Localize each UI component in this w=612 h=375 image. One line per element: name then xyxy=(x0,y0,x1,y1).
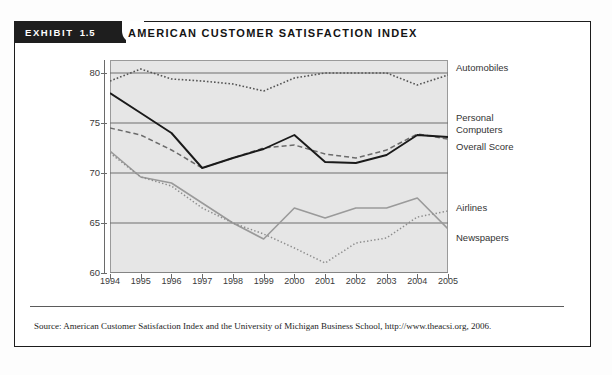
series-line-automobiles xyxy=(110,69,448,91)
y-tick-65: 65 xyxy=(74,217,100,228)
chart-svg xyxy=(110,60,448,273)
y-axis-line xyxy=(104,60,105,274)
series-line-overall-score xyxy=(110,93,448,168)
x-tick-mark-2002 xyxy=(356,274,357,279)
legend-newspapers: Newspapers xyxy=(456,232,509,244)
x-tick-mark-2001 xyxy=(325,274,326,279)
x-tick-mark-1995 xyxy=(141,274,142,279)
series-line-newspapers xyxy=(110,153,448,263)
exhibit-label: EXHIBIT xyxy=(25,27,74,38)
x-tick-mark-1998 xyxy=(233,274,234,279)
y-tick-80: 80 xyxy=(74,67,100,78)
x-tick-mark-1999 xyxy=(264,274,265,279)
exhibit-tab: EXHIBIT 1.5 xyxy=(14,21,126,43)
exhibit-number: 1.5 xyxy=(80,27,96,38)
legend-overall-score: Overall Score xyxy=(456,141,514,153)
chart-title: AMERICAN CUSTOMER SATISFACTION INDEX xyxy=(128,27,418,39)
exhibit-page: EXHIBIT 1.5 AMERICAN CUSTOMER SATISFACTI… xyxy=(0,0,612,375)
y-tick-70: 70 xyxy=(74,167,100,178)
legend-automobiles: Automobiles xyxy=(456,62,508,74)
series-line-airlines xyxy=(110,151,448,239)
x-tick-mark-2003 xyxy=(387,274,388,279)
legend-personal-computers: Personal Computers xyxy=(456,112,502,135)
x-tick-mark-2005 xyxy=(448,274,449,279)
x-tick-mark-1994 xyxy=(110,274,111,279)
y-tick-75: 75 xyxy=(74,117,100,128)
x-tick-mark-1997 xyxy=(202,274,203,279)
x-tick-mark-2000 xyxy=(294,274,295,279)
legend-airlines: Airlines xyxy=(456,202,487,214)
source-divider xyxy=(30,306,564,307)
chart-plot-area xyxy=(110,60,448,273)
x-tick-mark-2004 xyxy=(417,274,418,279)
x-tick-mark-1996 xyxy=(171,274,172,279)
source-note: Source: American Customer Satisfaction I… xyxy=(34,321,579,331)
